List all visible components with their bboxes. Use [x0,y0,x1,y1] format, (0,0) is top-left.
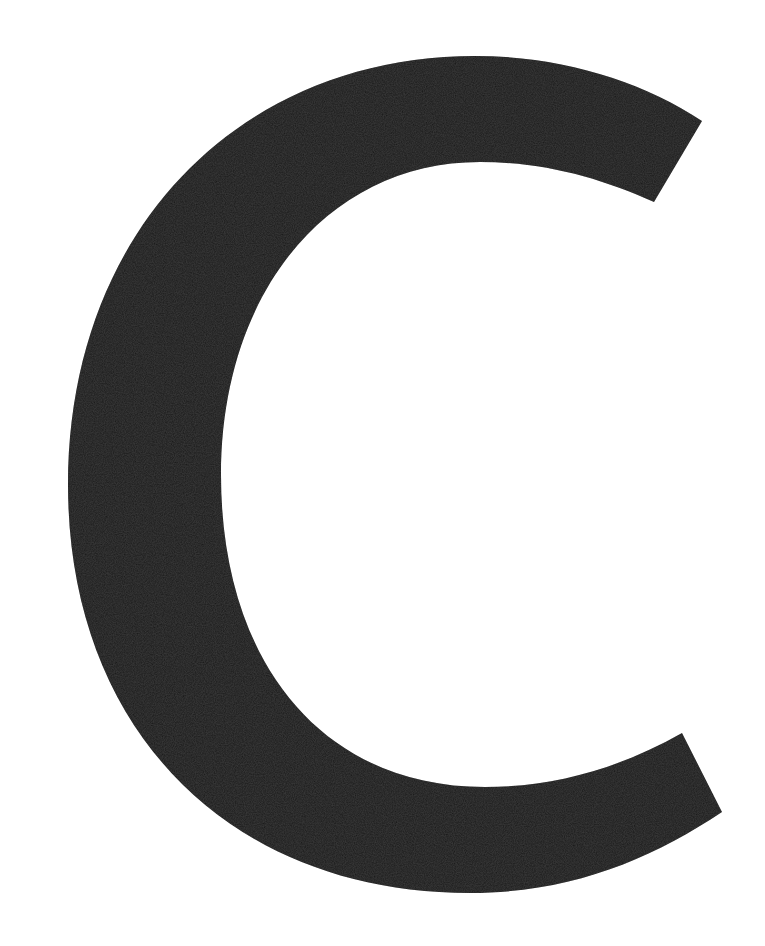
letter-canvas: C [0,0,765,946]
letter-c-glyph [0,0,765,946]
letter-c-shape [68,56,722,893]
